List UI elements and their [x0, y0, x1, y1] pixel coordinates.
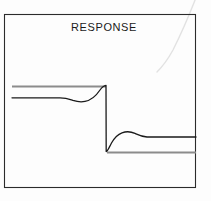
- page-title: RESPONSE: [71, 21, 137, 33]
- response-plot: RESPONSE: [0, 0, 211, 201]
- figure-root: RESPONSE: [0, 0, 211, 201]
